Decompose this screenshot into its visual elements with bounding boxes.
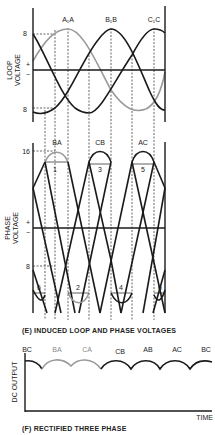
phase-axis-label-1: PHASE: [4, 216, 11, 240]
dc-axis-label: DC OUTPUT: [11, 361, 18, 403]
loop-tick-top: 8: [23, 30, 27, 37]
dc-label-cb: CB: [115, 348, 125, 355]
loop-minus: −: [26, 71, 30, 78]
phase-cap-ba: [45, 152, 68, 162]
phase-axis-label-2: VOLTAGE: [12, 212, 19, 244]
phase-peak-label-ba: BA: [52, 139, 62, 146]
three-phase-diagram: 8 8 + − LOOP VOLTAGE A₁A B₁B C₁C: [0, 0, 215, 435]
loop-voltage-chart: 8 8 + − LOOP VOLTAGE A₁A B₁B C₁C: [6, 6, 165, 320]
loop-peak-label-a: A₁A: [62, 16, 74, 23]
guide-lines: [33, 28, 154, 320]
loop-curve-c: [33, 29, 165, 113]
phase-cap-cb: [89, 152, 111, 163]
phase-peak-label-ac: AC: [138, 139, 148, 146]
interval-6-right: 6: [158, 284, 162, 291]
phase-tick-8: 8: [26, 263, 30, 270]
caption-e: (E) INDUCED LOOP AND PHASE VOLTAGES: [22, 327, 176, 335]
phase-plus: +: [26, 219, 30, 226]
phase-tick-16: 16: [22, 148, 30, 155]
dc-label-ab: AB: [143, 346, 153, 353]
loop-tick-bottom: 8: [23, 106, 27, 113]
time-axis-label: TIME: [196, 414, 213, 421]
loop-peak-label-c: C₁C: [148, 16, 160, 23]
dc-output-chart: BC BA CA CB AB AC BC DC OUTPUT TIME: [11, 346, 213, 421]
dc-label-ac: AC: [172, 346, 182, 353]
interval-1: 1: [53, 166, 57, 173]
phase-lattice-lines: [33, 162, 165, 313]
interval-3: 3: [98, 166, 102, 173]
phase-voltage-chart: 16 8 + − PHASE VOLTAGE BA CB AC 1 3 5 6 …: [4, 139, 165, 313]
loop-axis-label-1: LOOP: [6, 60, 13, 80]
interval-5: 5: [141, 166, 145, 173]
loop-plus: +: [26, 61, 30, 68]
caption-f: (F) RECTIFIED THREE PHASE: [22, 425, 127, 433]
phase-peak-label-cb: CB: [95, 139, 105, 146]
interval-2: 2: [76, 284, 80, 291]
interval-4: 4: [119, 284, 123, 291]
dc-label-bc-end: BC: [201, 346, 211, 353]
phase-minus: −: [26, 229, 30, 236]
phase-cap-ac: [132, 152, 154, 163]
loop-peak-label-b: B₁B: [105, 16, 117, 23]
dc-label-ba: BA: [52, 346, 62, 353]
interval-6-left: 6: [37, 284, 41, 291]
dc-label-bc-start: BC: [22, 346, 32, 353]
loop-axis-label-2: VOLTAGE: [14, 54, 21, 86]
phase-trough-4: [111, 293, 132, 303]
dc-label-ca: CA: [82, 346, 92, 353]
